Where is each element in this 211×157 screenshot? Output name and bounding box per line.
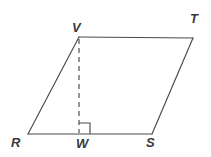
- vertex-label-r: R: [11, 136, 20, 149]
- geometry-canvas: [0, 0, 211, 157]
- segment-TS: [152, 38, 193, 134]
- vertex-label-w: W: [76, 137, 88, 150]
- vertex-label-s: S: [146, 136, 155, 149]
- right-angle-marker-icon: [79, 123, 90, 134]
- parallelogram-outline: [28, 37, 193, 134]
- vertex-label-v: V: [72, 21, 81, 34]
- geometry-figure: V T R W S: [0, 0, 211, 157]
- vertex-label-t: T: [190, 12, 198, 25]
- segment-RV: [28, 37, 79, 134]
- segment-VT: [79, 37, 193, 38]
